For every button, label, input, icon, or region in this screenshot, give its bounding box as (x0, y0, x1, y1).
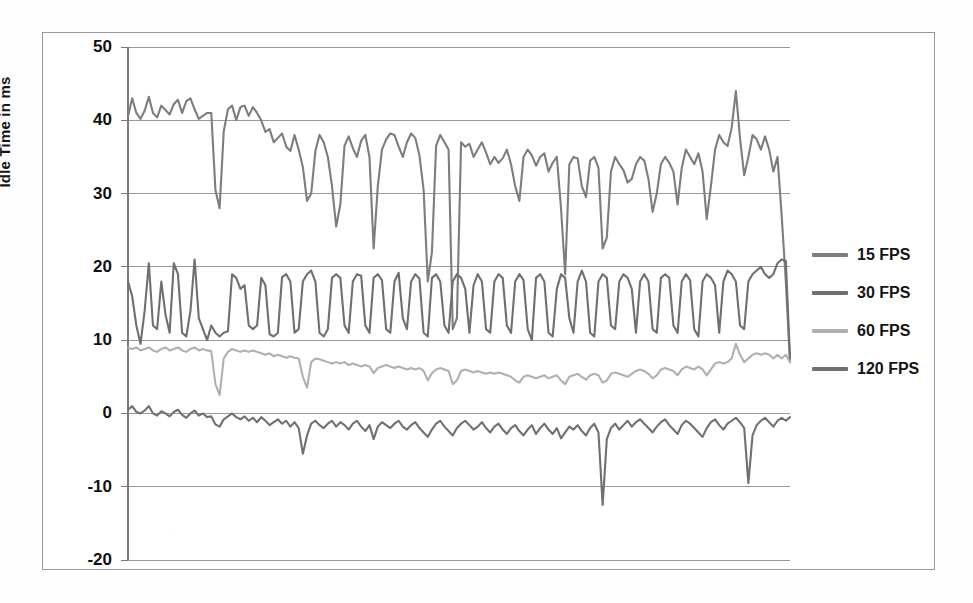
legend-label-30fps: 30 FPS (857, 284, 910, 302)
series-line-60-fps (128, 344, 790, 395)
series-line-15-fps (128, 91, 790, 362)
series-line-120-fps (128, 406, 790, 505)
chart-figure: Idle Time in ms 50403020100-10-20 15 FPS… (0, 0, 973, 603)
legend-label-15fps: 15 FPS (857, 246, 910, 264)
legend-item-15fps[interactable]: 15 FPS (812, 236, 962, 274)
legend-item-30fps[interactable]: 30 FPS (812, 274, 962, 312)
legend-swatch-15fps (812, 253, 848, 257)
legend-item-120fps[interactable]: 120 FPS (812, 350, 962, 388)
legend-item-60fps[interactable]: 60 FPS (812, 312, 962, 350)
legend-swatch-30fps (812, 291, 848, 295)
legend-swatch-60fps (812, 329, 848, 333)
legend-label-60fps: 60 FPS (857, 322, 910, 340)
legend-swatch-120fps (812, 367, 848, 371)
chart-legend: 15 FPS 30 FPS 60 FPS 120 FPS (812, 236, 962, 388)
legend-label-120fps: 120 FPS (857, 360, 919, 378)
